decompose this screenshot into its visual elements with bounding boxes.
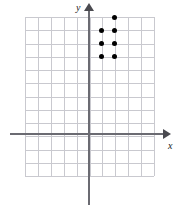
- y-axis-line: [88, 6, 90, 205]
- grid-line-vertical: [154, 17, 155, 176]
- coordinate-plane-figure: x y: [0, 0, 192, 213]
- y-axis-label: y: [76, 3, 80, 13]
- y-axis-arrow-icon: [84, 3, 94, 11]
- x-axis-label: x: [168, 141, 172, 151]
- x-axis-arrow-icon: [163, 129, 171, 139]
